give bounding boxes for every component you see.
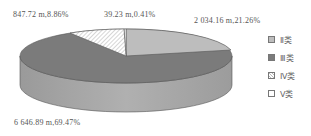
legend-label: Ⅲ类 bbox=[280, 52, 294, 63]
pie-chart-3d bbox=[0, 0, 311, 136]
legend-item-iv: Ⅳ类 bbox=[268, 66, 295, 84]
swatch-iv bbox=[268, 72, 275, 79]
legend: Ⅱ类 Ⅲ类 Ⅳ类 Ⅴ类 bbox=[268, 30, 295, 102]
label-v: 39.23 m,0.41% bbox=[104, 10, 156, 19]
legend-label: Ⅱ类 bbox=[280, 34, 292, 45]
legend-item-iii: Ⅲ类 bbox=[268, 48, 295, 66]
label-iv: 847.72 m,8.86% bbox=[13, 10, 69, 19]
legend-item-ii: Ⅱ类 bbox=[268, 30, 295, 48]
label-iii: 6 646.89 m,69.47% bbox=[14, 118, 80, 127]
label-ii: 2 034.16 m,21.26% bbox=[194, 16, 260, 25]
legend-label: Ⅳ类 bbox=[280, 70, 295, 81]
swatch-iii bbox=[268, 54, 275, 61]
legend-label: Ⅴ类 bbox=[280, 88, 293, 99]
swatch-ii bbox=[268, 36, 275, 43]
legend-item-v: Ⅴ类 bbox=[268, 84, 295, 102]
swatch-v bbox=[268, 90, 275, 97]
